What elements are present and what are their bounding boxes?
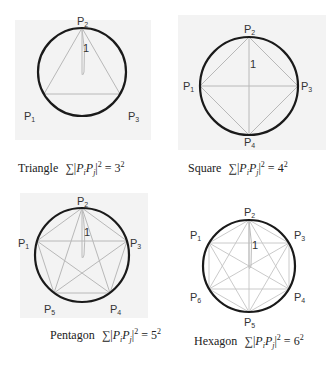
vertex-label-p1: P1 [190, 229, 201, 242]
triangle-diagram: 1 P2 P1 P3 [0, 0, 166, 185]
radius-label: 1 [83, 42, 89, 54]
vertex-label-p2: P2 [77, 15, 88, 28]
radius-label: 1 [84, 226, 90, 238]
vertex-label-p4: P4 [294, 291, 305, 304]
pentagon-caption: Pentagon ∑|PiPj|2 = 52 [50, 327, 161, 344]
caption-name: Triangle [18, 161, 58, 175]
hexagon-panel: 1 P2 P1 P3 P4 P5 P6 Hexagon ∑|PiPj|2 = 6… [166, 185, 333, 370]
square-caption: Square ∑|PiPj|2 = 42 [188, 160, 288, 177]
radius-label: 1 [252, 239, 258, 251]
radius-label: 1 [250, 58, 256, 70]
square-diagram: 1 P2 P1 P3 P4 [166, 0, 333, 185]
hexagon-caption: Hexagon ∑|PiPj|2 = 62 [194, 333, 304, 350]
square-panel: 1 P2 P1 P3 P4 Square ∑|PiPj|2 = 42 [166, 0, 333, 185]
pentagon-panel: 1 P2 P1 P3 P4 P5 Pentagon ∑|PiPj|2 = 52 [0, 185, 166, 370]
triangle-panel: 1 P2 P1 P3 Triangle ∑|PiPj|2 = 32 [0, 0, 166, 185]
vertex-label-p6: P6 [190, 291, 201, 304]
formula: ∑|PiPj|2 = 32 [65, 161, 124, 175]
vertex-label-p3: P3 [294, 229, 305, 242]
vertex-label-p2: P2 [244, 206, 255, 219]
triangle-caption: Triangle ∑|PiPj|2 = 32 [18, 160, 125, 177]
caption-name: Square [188, 161, 221, 175]
caption-name: Hexagon [194, 334, 237, 348]
vertex-label-p5: P5 [244, 316, 255, 329]
caption-name: Pentagon [50, 328, 95, 342]
formula: ∑|PiPj|2 = 62 [244, 334, 303, 348]
formula: ∑|PiPj|2 = 52 [102, 328, 161, 342]
formula: ∑|PiPj|2 = 42 [228, 161, 287, 175]
